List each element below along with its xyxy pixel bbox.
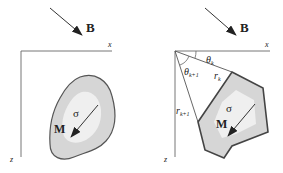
field-label-b: B xyxy=(86,20,95,35)
theta-k1-label: θk+1 xyxy=(184,66,199,78)
arbitrary-body-shape xyxy=(50,76,115,160)
magnetic-body-diagram: B x z σ M B x z θk θk+1 xyxy=(0,0,283,173)
theta-k1-arc xyxy=(180,56,189,65)
r-k-label: rk xyxy=(214,70,221,82)
x-axis-label: x xyxy=(264,40,269,49)
theta-k-label: θk xyxy=(206,54,214,66)
x-axis-label: x xyxy=(107,40,112,49)
z-axis-label: z xyxy=(163,155,168,164)
sigma-label: σ xyxy=(73,107,79,119)
polygon-body-shape xyxy=(198,72,268,158)
sigma-label: σ xyxy=(226,102,232,114)
right-panel: B x z θk θk+1 rk rk+1 σ M xyxy=(163,8,270,164)
theta-k-arc xyxy=(195,51,196,58)
b-field-arrow-icon xyxy=(50,8,82,35)
magnetization-label: M xyxy=(54,122,65,136)
magnetization-label: M xyxy=(216,117,227,131)
z-axis-label: z xyxy=(9,155,14,164)
b-field-arrow-icon xyxy=(205,8,236,35)
field-label-b: B xyxy=(240,20,249,35)
r-k1-label: rk+1 xyxy=(176,105,190,117)
left-panel: B x z σ M xyxy=(9,8,115,164)
